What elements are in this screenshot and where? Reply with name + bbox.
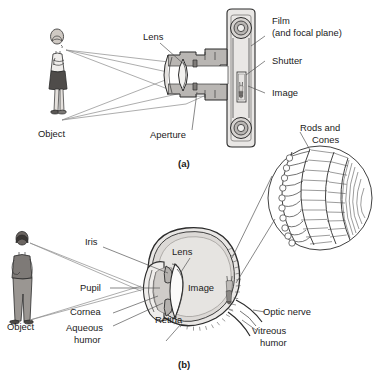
label-lens-b: Lens [172, 246, 193, 257]
label-cornea: Cornea [70, 306, 102, 317]
shutter-and-image-on-film [237, 72, 246, 102]
label-aperture: Aperture [150, 129, 186, 140]
label-optic-nerve: Optic nerve [263, 306, 311, 317]
label-rods-line1: Rods and [300, 122, 340, 133]
caption-a: (a) [178, 158, 190, 169]
label-object-a: Object [38, 128, 65, 139]
label-rods-line2: Cones [312, 134, 339, 145]
figure-page: Object Lens Aperture Film (and focal pla… [0, 0, 383, 375]
label-aqueous-line1: Aqueous [66, 322, 103, 333]
caption-b: (b) [178, 359, 190, 370]
label-pupil: Pupil [80, 282, 101, 293]
label-iris: Iris [85, 236, 98, 247]
label-image-a: Image [272, 87, 298, 98]
camera-lens-barrel [164, 49, 228, 100]
label-film: Film [272, 15, 290, 26]
label-object-b: Object [7, 321, 34, 332]
label-lens-a: Lens [143, 31, 164, 42]
label-vitreous-line1: Vitreous [252, 325, 287, 336]
label-image-b: Image [188, 282, 214, 293]
label-film-subtitle: (and focal plane) [272, 27, 342, 38]
label-vitreous-line2: humor [260, 337, 287, 348]
label-shutter: Shutter [272, 55, 302, 66]
label-aqueous-line2: humor [74, 334, 101, 345]
camera-eye-figure: Object Lens Aperture Film (and focal pla… [0, 0, 383, 375]
label-retina: Retina [155, 314, 183, 325]
